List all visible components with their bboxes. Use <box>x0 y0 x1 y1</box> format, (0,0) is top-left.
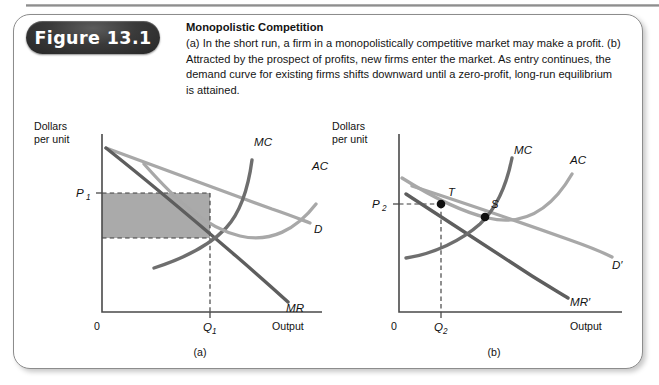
curve-label-mr-a: MR <box>286 301 305 314</box>
curve-label-mc-a: MC <box>254 135 273 148</box>
figure-charts-area: Dollars per unit P 1 0 Q 1 Output MC AC … <box>14 116 630 364</box>
point-s-marker <box>481 213 490 222</box>
point-t-label: T <box>448 186 456 198</box>
quantity-label-b: Q 2 <box>434 320 448 336</box>
figure-title: Monopolistic Competition <box>186 20 622 35</box>
curve-label-d-a: D <box>314 222 322 235</box>
y-axis-label-b-line2: per unit <box>332 133 367 145</box>
price-label-b: P 2 <box>372 197 387 213</box>
price-label-a-sub: 1 <box>86 193 91 202</box>
quantity-label-a-sub: 1 <box>212 327 217 336</box>
panel-b: T S Dollars per unit P 2 0 Q 2 Output MC… <box>332 120 623 358</box>
y-axis-label-a-line1: Dollars <box>34 120 67 132</box>
point-s-label: S <box>491 198 499 210</box>
figure-header: Monopolistic Competition (a) In the shor… <box>186 20 622 98</box>
curve-label-d-prime-b: D′ <box>612 258 623 271</box>
y-axis-label-a-line2: per unit <box>34 133 69 145</box>
y-axis-label-b-line1: Dollars <box>332 120 365 132</box>
panel-caption-b: (b) <box>488 346 501 358</box>
quantity-label-a-letter: Q <box>203 320 212 333</box>
curve-label-mr-prime-b: MR′ <box>570 295 591 308</box>
charts-svg: Dollars per unit P 1 0 Q 1 Output MC AC … <box>14 116 630 364</box>
price-label-a: P 1 <box>76 186 91 202</box>
price-label-a-letter: P <box>76 186 84 199</box>
curve-label-ac-b: AC <box>569 153 587 166</box>
curve-label-mc-b: MC <box>514 143 533 156</box>
price-label-b-sub: 2 <box>381 204 387 213</box>
x-axis-label-a: Output <box>272 320 304 332</box>
figure-caption-text: (a) In the short run, a firm in a monopo… <box>186 36 622 98</box>
origin-label-b: 0 <box>391 320 397 332</box>
origin-label-a: 0 <box>94 320 100 332</box>
figure-number-badge: Figure 13.1 <box>26 21 160 54</box>
panel-a: Dollars per unit P 1 0 Q 1 Output MC AC … <box>34 120 329 358</box>
quantity-label-b-letter: Q <box>434 320 443 333</box>
price-label-b-letter: P <box>372 197 380 210</box>
curve-label-ac-a: AC <box>311 159 329 172</box>
figure-number-label: Figure 13.1 <box>34 28 151 48</box>
point-t-marker <box>437 200 446 209</box>
quantity-label-a: Q 1 <box>203 320 217 336</box>
profit-rectangle <box>102 193 210 238</box>
quantity-label-b-sub: 2 <box>442 327 448 336</box>
panel-caption-a: (a) <box>194 346 207 358</box>
page-top-rule <box>26 4 659 7</box>
x-axis-label-b: Output <box>570 320 602 332</box>
